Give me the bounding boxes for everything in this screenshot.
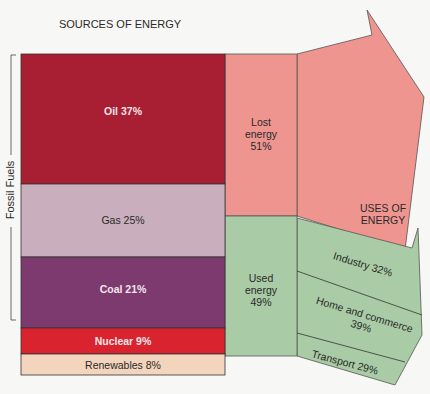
oil-block [21, 54, 225, 184]
fossil-fuels-bracket [11, 55, 16, 155]
chart-title: SOURCES OF ENERGY [40, 18, 200, 30]
gas-label: Gas 25% [21, 214, 225, 226]
fossil-fuels-label: Fossil Fuels [4, 145, 16, 235]
nuclear-label: Nuclear 9% [21, 335, 225, 347]
uses-of-energy-title: USES OF ENERGY [348, 202, 418, 226]
renewables-label: Renewables 8% [21, 359, 225, 371]
lost-energy-label: Lost energy 51% [225, 116, 297, 152]
oil-label: Oil 37% [21, 105, 225, 117]
coal-label: Coal 21% [21, 283, 225, 295]
used-energy-label: Used energy 49% [225, 272, 297, 308]
